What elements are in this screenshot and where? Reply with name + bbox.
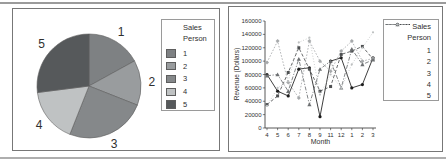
legend-item-label: 2 (386, 57, 438, 66)
y-tick-label: 20000 (245, 112, 262, 118)
legend-item-label: 3 (183, 74, 187, 83)
legend-item-label: 4 (386, 80, 438, 89)
legend-line-sample (384, 20, 411, 29)
line-legend-row-5: 5 (384, 90, 438, 101)
y-tick-label: 140000 (241, 31, 262, 37)
x-tick-label: 12 (338, 132, 345, 138)
document-page: 12345 Sales Person 12345 Revenue (Dollar… (0, 0, 446, 166)
series-line-1 (267, 58, 373, 117)
pie-legend-row-1: 1 (166, 47, 214, 60)
legend-item-label: 2 (183, 62, 187, 71)
x-tick-label: 11 (327, 132, 334, 138)
line-legend-row-2: 2 (384, 56, 438, 67)
x-tick-label: 5 (276, 132, 280, 138)
bottom-horizontal-rule (0, 157, 446, 159)
pie-legend-row-4: 4 (166, 85, 214, 98)
pie-legend-row-5: 5 (166, 98, 214, 111)
line-legend-row-1: 1 (384, 45, 438, 56)
legend-color-swatch (166, 62, 176, 71)
x-tick-label: 2 (361, 132, 365, 138)
pie-legend-title-line1: Sales (162, 22, 214, 33)
legend-item-label: 1 (183, 49, 187, 58)
pie-legend: Sales Person 12345 (161, 19, 215, 111)
y-tick-label: 100000 (241, 58, 262, 64)
pie-slice-label-2: 2 (149, 75, 156, 89)
y-tick-label: 0 (258, 125, 262, 131)
top-horizontal-rule (0, 2, 446, 4)
x-tick-label: 6 (287, 132, 291, 138)
series-line-4 (267, 49, 373, 105)
line-legend-title-line2: Person (384, 33, 438, 44)
line-legend-rows: 12345 (384, 45, 438, 101)
legend-color-swatch (166, 100, 176, 109)
legend-color-swatch (166, 88, 176, 97)
pie-legend-rows: 12345 (166, 47, 214, 111)
series-line-2 (267, 46, 373, 104)
pie-slice-label-1: 1 (118, 25, 125, 39)
y-tick-label: 80000 (245, 72, 262, 78)
legend-color-swatch (166, 49, 176, 58)
legend-item-label: 5 (183, 100, 187, 109)
pie-legend-row-3: 3 (166, 73, 214, 86)
pie-slice-label-3: 3 (111, 137, 118, 150)
pie-slice-label-5: 5 (38, 37, 45, 51)
x-axis-label: Month (265, 138, 376, 145)
x-tick-label: 9 (318, 132, 322, 138)
pie-slice-label-4: 4 (36, 118, 43, 132)
legend-item-label: 4 (183, 87, 187, 96)
y-tick-label: 60000 (245, 85, 262, 91)
x-tick-label: 8 (308, 132, 312, 138)
line-legend-row-4: 4 (384, 79, 438, 90)
legend-item-label: 1 (386, 46, 438, 55)
legend-color-swatch (166, 75, 176, 84)
series-2 (266, 45, 375, 106)
x-tick-label: 1 (350, 132, 354, 138)
pie-legend-title-line2: Person (162, 33, 214, 44)
x-tick-label: 7 (297, 132, 301, 138)
x-tick-label: 3 (371, 132, 375, 138)
line-chart-panel: Revenue (Dollars) 0200004000060000800001… (228, 6, 443, 152)
pie-chart-panel: 12345 Sales Person 12345 (12, 8, 220, 151)
pie-legend-row-2: 2 (166, 60, 214, 73)
y-tick-label: 120000 (241, 45, 262, 51)
y-tick-label: 40000 (245, 98, 262, 104)
legend-item-label: 5 (386, 91, 438, 100)
legend-item-label: 3 (386, 69, 438, 78)
x-tick-label: 4 (265, 132, 269, 138)
line-legend: Sales Person 12345 (383, 19, 439, 101)
y-tick-label: 160000 (241, 18, 262, 24)
line-legend-row-3: 3 (384, 68, 438, 79)
